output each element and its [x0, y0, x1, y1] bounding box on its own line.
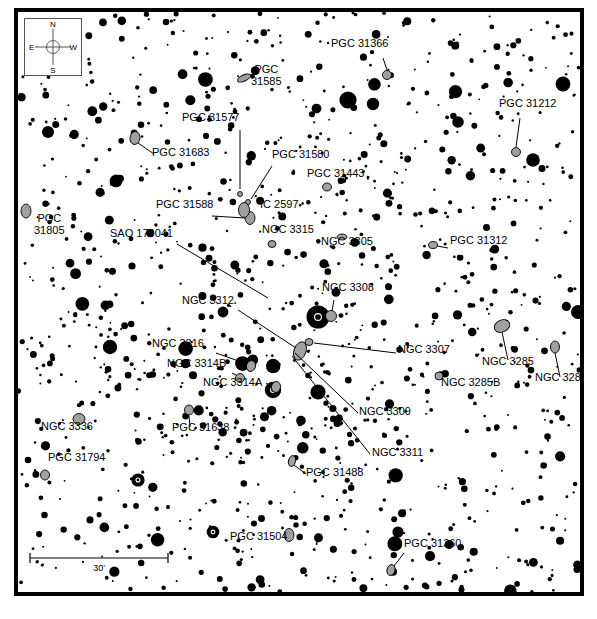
galaxy-marker[interactable]	[323, 183, 332, 191]
object-label-pgc31360: PGC 31360	[404, 537, 461, 549]
object-label-ngc3309: NGC 3309	[359, 405, 411, 417]
galaxy-marker[interactable]	[492, 317, 512, 335]
leader-line	[516, 118, 520, 147]
object-label-pgc31585: PGC 31585	[251, 63, 282, 87]
leader-line	[314, 343, 396, 353]
leader-line	[238, 310, 296, 348]
leader-line	[212, 216, 245, 218]
object-label-ngc3336: NGC 3336	[41, 420, 93, 432]
compass-east-label: E	[29, 43, 34, 52]
leader-line	[266, 383, 272, 386]
galaxy-marker[interactable]	[551, 341, 560, 353]
object-label-pgc31577: PGC 31577	[182, 111, 239, 123]
compass-south-label: S	[50, 66, 55, 75]
star-field: PGC 31366PGC 31585PGC 31212PGC 31577PGC …	[18, 12, 580, 592]
compass-west-label: W	[69, 43, 77, 52]
leader-line	[383, 58, 387, 70]
object-label-pgc31212: PGC 31212	[499, 97, 556, 109]
scale-bar-label: 30'	[93, 563, 105, 573]
scale-bar: 30'	[26, 552, 172, 578]
leader-line	[295, 353, 358, 413]
object-label-ngc3316: NGC 3316	[152, 337, 204, 349]
leader-line	[437, 246, 448, 248]
galaxy-marker[interactable]	[129, 131, 141, 146]
object-label-ngc3312: NGC 3312	[182, 294, 234, 306]
galaxy-marker[interactable]	[268, 241, 276, 248]
object-label-pgc31488: PGC 31488	[306, 466, 363, 478]
object-label-sao179041: SAO 179041	[110, 227, 173, 239]
object-label-pgc31443: PGC 31443	[307, 167, 364, 179]
object-label-ngc3285a: NGC 3285A	[535, 371, 580, 383]
object-label-ngc3305: NGC 3305	[321, 235, 373, 247]
galaxy-marker[interactable]	[429, 242, 438, 249]
object-label-pgc31588: PGC 31588	[156, 198, 213, 210]
object-label-pgc31580: PGC 31580	[272, 148, 329, 160]
object-label-ngc3285: NGC 3285	[482, 355, 534, 367]
scale-bar-graphic: 30'	[26, 552, 172, 578]
object-label-ngc3314a: NGC 3314A	[203, 376, 262, 388]
leader-line	[294, 465, 306, 474]
object-label-ngc3314b: NGC 3314B	[167, 357, 226, 369]
object-label-pgc31794: PGC 31794	[48, 451, 105, 463]
galaxy-marker[interactable]	[305, 339, 313, 346]
compass-rose-graphic: N S E W	[25, 19, 81, 75]
compass-rose: N S E W	[24, 18, 82, 76]
leader-line	[177, 244, 268, 298]
object-label-ngc3285b: NGC 3285B	[441, 376, 500, 388]
galaxy-marker[interactable]	[271, 381, 282, 393]
galaxy-marker[interactable]	[185, 405, 194, 415]
galaxy-marker[interactable]	[383, 71, 392, 80]
galaxy-marker[interactable]	[245, 360, 257, 373]
galaxy-overlay-layer	[18, 12, 580, 592]
compass-north-label: N	[50, 20, 56, 29]
leader-line	[332, 300, 334, 311]
galaxy-marker[interactable]	[236, 72, 251, 83]
galaxy-marker[interactable]	[21, 204, 31, 218]
object-label-pgc31504: PGC 31504	[230, 530, 287, 542]
finder-chart-root: PGC 31366PGC 31585PGC 31212PGC 31577PGC …	[0, 0, 597, 619]
galaxy-marker[interactable]	[41, 470, 50, 480]
leader-line	[394, 553, 404, 566]
leader-line	[251, 166, 272, 199]
object-label-ngc3308: NGC 3308	[322, 281, 374, 293]
galaxy-marker[interactable]	[287, 455, 297, 467]
object-label-pgc31366: PGC 31366	[331, 37, 388, 49]
object-label-ngc3311: NGC 3311	[372, 446, 423, 458]
object-label-pgc31638: PGC 31638	[172, 421, 229, 433]
galaxy-marker[interactable]	[239, 203, 250, 218]
galaxy-marker[interactable]	[238, 192, 243, 197]
galaxy-marker[interactable]	[512, 148, 521, 157]
object-label-ic2597: IC 2597	[260, 198, 299, 210]
galaxy-marker[interactable]	[326, 311, 337, 322]
object-label-pgc31312: PGC 31312	[450, 234, 507, 246]
object-label-ngc3307: NGC 3307	[398, 343, 450, 355]
object-label-pgc31683: PGC 31683	[152, 146, 209, 158]
object-label-ngc3315: NGC 3315	[262, 223, 314, 235]
object-label-pgc31805: PGC 31805	[34, 212, 65, 236]
chart-frame-border: PGC 31366PGC 31585PGC 31212PGC 31577PGC …	[14, 8, 584, 596]
